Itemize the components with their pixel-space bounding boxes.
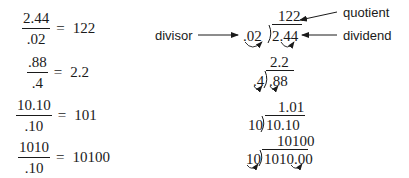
annotation-arrows-icon bbox=[0, 0, 409, 178]
